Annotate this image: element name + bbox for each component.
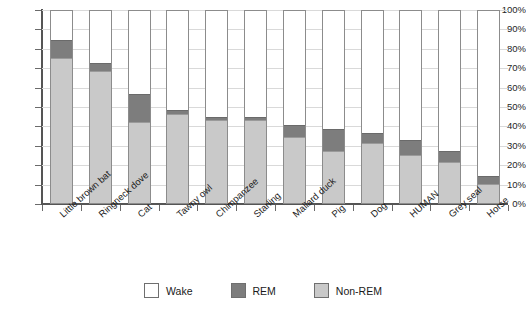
bar-column[interactable] [322, 10, 345, 204]
bar-column[interactable] [205, 10, 228, 204]
bar-rem-segment[interactable] [90, 63, 111, 71]
sleep-stages-stacked-bar-chart: 0%10%20%30%40%50%60%70%80%90%100% Little… [0, 0, 526, 317]
bar-rem-segment[interactable] [245, 117, 266, 120]
bar-column[interactable] [244, 10, 267, 204]
bar-rem-segment[interactable] [129, 94, 150, 121]
x-axis-tick-mark [236, 205, 237, 211]
x-axis-tick-mark [275, 205, 276, 211]
x-axis-category-label: Pig [330, 203, 347, 220]
bar-wake-segment[interactable] [205, 10, 228, 204]
bar-wake-segment[interactable] [244, 10, 267, 204]
legend-swatch-icon [314, 283, 329, 298]
bar-wake-segment[interactable] [399, 10, 422, 204]
bar-nonrem-segment[interactable] [51, 58, 72, 204]
bar-rem-segment[interactable] [206, 117, 227, 120]
legend-item[interactable]: Non-REM [314, 283, 382, 298]
x-axis-tick-mark [81, 205, 82, 211]
bar-rem-segment[interactable] [167, 110, 188, 114]
x-axis-tick-mark [159, 205, 160, 211]
bar-rem-segment[interactable] [400, 140, 421, 155]
bar-column[interactable] [399, 10, 422, 204]
x-axis-tick-mark [430, 205, 431, 211]
x-axis-tick-mark [469, 205, 470, 211]
bar-wake-segment[interactable] [322, 10, 345, 204]
bar-wake-segment[interactable] [283, 10, 306, 204]
bar-column[interactable] [361, 10, 384, 204]
bar-column[interactable] [438, 10, 461, 204]
bar-wake-segment[interactable] [166, 10, 189, 204]
bar-column[interactable] [283, 10, 306, 204]
bar-column[interactable] [50, 10, 73, 204]
legend-label: Non-REM [336, 285, 382, 297]
legend-label: REM [253, 285, 276, 297]
x-axis-tick-mark [353, 205, 354, 211]
x-axis-tick-mark [314, 205, 315, 211]
bar-wake-segment[interactable] [50, 10, 73, 204]
bar-wake-segment[interactable] [477, 10, 500, 204]
bar-rem-segment[interactable] [362, 133, 383, 143]
bar-column[interactable] [477, 10, 500, 204]
bar-rem-segment[interactable] [51, 40, 72, 57]
bar-rem-segment[interactable] [284, 125, 305, 137]
legend-swatch-icon [231, 283, 246, 298]
bar-wake-segment[interactable] [438, 10, 461, 204]
bar-nonrem-segment[interactable] [323, 151, 344, 203]
bar-nonrem-segment[interactable] [362, 143, 383, 203]
bar-column[interactable] [166, 10, 189, 204]
bar-nonrem-segment[interactable] [284, 137, 305, 203]
legend-swatch-icon [144, 283, 159, 298]
bar-rem-segment[interactable] [323, 129, 344, 150]
bar-wake-segment[interactable] [361, 10, 384, 204]
bar-nonrem-segment[interactable] [400, 155, 421, 204]
legend-item[interactable]: Wake [144, 283, 192, 298]
legend-item[interactable]: REM [231, 283, 276, 298]
x-axis-tick-mark [42, 205, 43, 211]
bar-nonrem-segment[interactable] [167, 114, 188, 203]
legend-label: Wake [166, 285, 192, 297]
bar-rem-segment[interactable] [478, 176, 499, 184]
x-axis-tick-mark [120, 205, 121, 211]
chart-legend: WakeREMNon-REM [0, 283, 526, 298]
x-axis-tick-mark [508, 205, 509, 211]
x-axis-tick-mark [392, 205, 393, 211]
x-axis-tick-mark [197, 205, 198, 211]
bar-nonrem-segment[interactable] [439, 162, 460, 203]
bar-rem-segment[interactable] [439, 151, 460, 163]
